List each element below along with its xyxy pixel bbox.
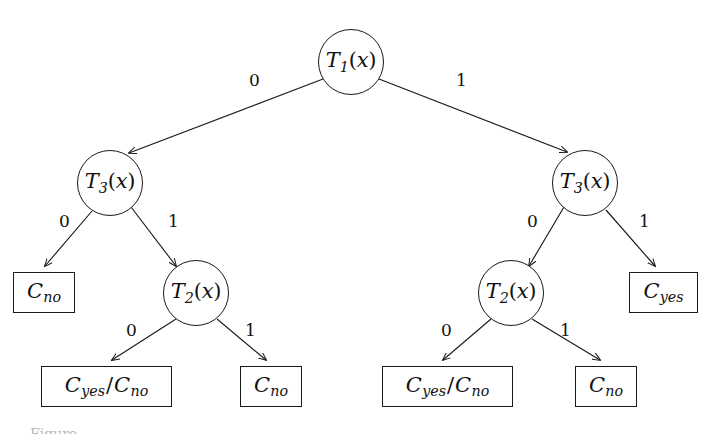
node-root-t1[interactable]: T1(x) (318, 29, 384, 95)
edge-label-left-t2-1: 1 (245, 322, 256, 339)
leaf-class-no-left-label: Cno (27, 281, 61, 305)
node-right-t2[interactable]: T2(x) (478, 260, 544, 326)
leaf-class-no-bottom-right-label: Cno (589, 375, 623, 399)
leaf-class-yes-no-left-label: Cyes/Cno (65, 375, 148, 399)
edge-label-left-0: 0 (59, 213, 70, 230)
leaf-class-no-bottom-left-label: Cno (254, 375, 288, 399)
leaf-class-no-bottom-left[interactable]: Cno (240, 366, 302, 407)
edge-left-t2-0 (112, 319, 176, 360)
leaf-class-yes-no-left[interactable]: Cyes/Cno (41, 366, 172, 407)
node-left-t3[interactable]: T3(x) (77, 150, 143, 216)
edge-label-root-right: 1 (456, 72, 467, 89)
edge-left-t2-1 (217, 319, 266, 360)
edge-label-root-left: 0 (249, 72, 260, 89)
node-right-t3-label: T3(x) (560, 171, 611, 195)
edge-label-right-1: 1 (639, 213, 650, 230)
leaf-class-yes-no-right-label: Cyes/Cno (406, 375, 489, 399)
edge-root-right (379, 79, 567, 152)
node-right-t2-label: T2(x) (486, 281, 537, 305)
edge-label-left-t2-0: 0 (126, 322, 137, 339)
node-right-t3[interactable]: T3(x) (552, 150, 618, 216)
leaf-class-no-bottom-right[interactable]: Cno (575, 366, 637, 407)
leaf-class-no-left[interactable]: Cno (13, 272, 75, 313)
edge-label-right-0: 0 (527, 213, 538, 230)
node-left-t2-label: T2(x) (171, 281, 222, 305)
node-left-t2[interactable]: T2(x) (163, 260, 229, 326)
node-root-t1-label: T1(x) (326, 50, 377, 74)
node-left-t3-label: T3(x) (85, 171, 136, 195)
caption-fragment: Figure (30, 427, 138, 434)
leaf-class-yes-right[interactable]: Cyes (629, 272, 698, 313)
edge-label-left-1: 1 (168, 213, 179, 230)
edge-label-right-t2-1: 1 (560, 322, 571, 339)
edge-root-left (129, 79, 323, 153)
edge-label-right-t2-0: 0 (441, 322, 452, 339)
leaf-class-yes-no-right[interactable]: Cyes/Cno (382, 366, 513, 407)
decision-tree-figure: T1(x) T3(x) T3(x) T2(x) T2(x) Cno Cyes C… (0, 0, 712, 436)
leaf-class-yes-right-label: Cyes (643, 281, 683, 305)
